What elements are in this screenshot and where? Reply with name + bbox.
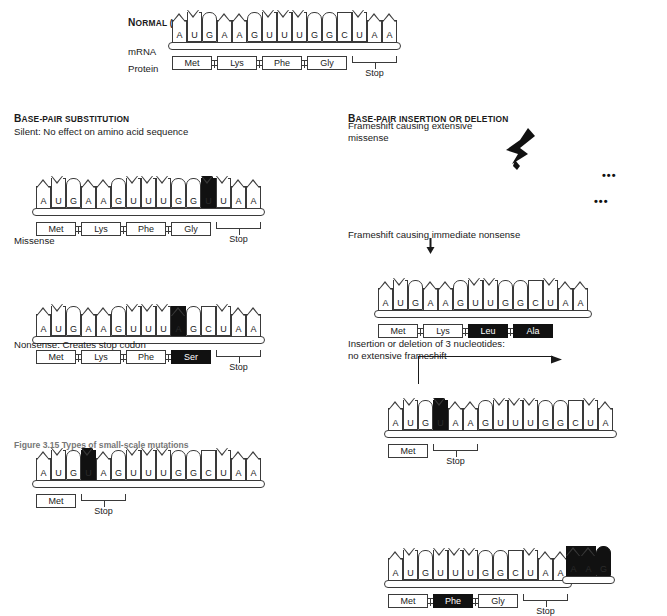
nucleotide-letter: G [478, 417, 493, 429]
nucleotide-letter: U [51, 467, 66, 479]
nucleotide: U [468, 280, 483, 310]
nucleotide-point-inner [599, 403, 611, 410]
nucleotide: A [598, 400, 613, 430]
nucleotide-letter: A [423, 297, 438, 309]
nucleotide-letter: U [508, 417, 523, 429]
nucleotide-notch [157, 305, 168, 312]
mrna-backbone [562, 576, 615, 584]
nucleotide-notch [202, 177, 213, 184]
nucleotide-mutated: A [171, 306, 186, 336]
nucleotide-letter: A [96, 195, 111, 207]
nucleotide-letter: U [126, 323, 141, 335]
base-row: AUGUAGUUUGGCUAA [36, 450, 261, 480]
nucleotide: U [433, 550, 448, 580]
nucleotide-point-inner [464, 403, 476, 410]
nucleotide: U [393, 280, 408, 310]
nucleotide: A [573, 280, 588, 310]
nucleotide-notch [449, 549, 460, 556]
nucleotide-letter: U [448, 567, 463, 579]
nucleotide-point-inner [232, 309, 244, 316]
nucleotide-notch [82, 449, 93, 456]
nucleotide-notch [127, 449, 138, 456]
nucleotide-notch [484, 279, 495, 286]
stop-label: Stop [524, 606, 568, 616]
nucleotide: A [232, 12, 247, 42]
nucleotide-letter: U [523, 567, 538, 579]
nucleotide-letter: C [568, 417, 583, 429]
mrna-strand-nonsense: AUGUAGUUUGGCUAAMetStop [36, 450, 667, 480]
nucleotide-letter: U [277, 29, 292, 41]
nucleotide-letter: A [81, 323, 96, 335]
nucleotide-letter: G [453, 297, 468, 309]
nucleotide: A [463, 400, 478, 430]
amino-acid-box: Leu [468, 324, 508, 338]
nucleotide-letter: A [558, 297, 573, 309]
nucleotide: G [111, 178, 126, 208]
nucleotide-letter: A [382, 29, 397, 41]
nucleotide-letter: A [231, 467, 246, 479]
nucleotide-letter: C [337, 29, 352, 41]
nucleotide: G [66, 450, 81, 480]
nucleotide-notch [404, 399, 415, 406]
nucleotide-notch [469, 279, 480, 286]
nucleotide-point-inner [389, 553, 401, 560]
amino-acid-box: Gly [171, 222, 211, 236]
missense-heading: Missense [14, 230, 55, 248]
nucleotide-point-inner [37, 181, 49, 188]
connector-horizontal [418, 356, 553, 357]
nucleotide: U [483, 280, 498, 310]
nucleotide-point-inner [567, 549, 579, 556]
nucleotide-letter: U [156, 467, 171, 479]
nucleotide-notch [142, 177, 153, 184]
nucleotide-point-inner [383, 15, 395, 22]
nucleotide-letter: U [543, 297, 558, 309]
nucleotide: U [463, 550, 478, 580]
nucleotide: A [96, 306, 111, 336]
nucleotide-letter: U [141, 323, 156, 335]
nucleotide: G [553, 400, 568, 430]
nucleotide-letter: A [378, 297, 393, 309]
protein-ellipsis: ••• [594, 196, 609, 207]
nucleotide: U [51, 306, 66, 336]
amino-acid-box: Lys [81, 350, 121, 364]
nucleotide: A [231, 178, 246, 208]
nucleotide-letter: G [171, 467, 186, 479]
nucleotide-letter: U [156, 323, 171, 335]
nucleotide-letter: A [36, 323, 51, 335]
nucleotide-letter: A [463, 417, 478, 429]
nucleotide-letter: G [596, 563, 611, 575]
nucleotide: U [216, 450, 231, 480]
nucleotide-letter: U [216, 195, 231, 207]
nucleotide: C [337, 12, 352, 42]
nucleotide-letter: A [96, 467, 111, 479]
nucleotide-letter: U [216, 323, 231, 335]
nucleotide: U [352, 12, 367, 42]
nucleotide: G [307, 12, 322, 42]
nucleotide: C [528, 280, 543, 310]
nucleotide-mutated: U [81, 450, 96, 480]
amino-acid-box: Phe [433, 594, 473, 608]
nucleotide-letter: G [111, 467, 126, 479]
mrna-strand-silent: AUGAAGUUUGGUUAAMetLysPheGlyStop [36, 178, 667, 208]
nucleotide-point-inner [82, 309, 94, 316]
nucleotide-letter: G [322, 29, 337, 41]
nucleotide: G [66, 178, 81, 208]
nucleotide-letter: U [216, 467, 231, 479]
nucleotide-letter: A [171, 323, 186, 335]
insertion-arrow-icon [426, 238, 435, 258]
nucleotide: A [367, 12, 382, 42]
amino-acid-box: Met [36, 494, 76, 508]
nucleotide: G [111, 450, 126, 480]
nucleotide-letter: G [498, 297, 513, 309]
nucleotide-point-inner [379, 283, 391, 290]
nucleotide-letter: C [528, 297, 543, 309]
nucleotide-notch [52, 449, 63, 456]
nucleotide-point-inner [37, 309, 49, 316]
nucleotide: A [388, 400, 403, 430]
nucleotide-letter: U [262, 29, 277, 41]
nucleotide-point-inner [449, 403, 461, 410]
nucleotide-notch [157, 177, 168, 184]
nucleotide: G [478, 550, 493, 580]
nucleotide-point-inner [539, 553, 551, 560]
nucleotide: G [493, 550, 508, 580]
